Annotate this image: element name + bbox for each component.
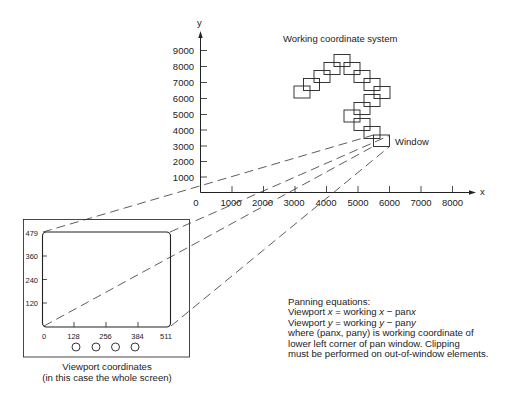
viewport-caption: Viewport coordinates (in this case the w… — [24, 361, 190, 383]
svg-text:240: 240 — [25, 276, 38, 285]
window-label: Window — [395, 136, 429, 147]
panning-note-line3: must be performed on out-of-window eleme… — [288, 349, 489, 359]
svg-text:5000: 5000 — [347, 197, 368, 208]
projection-line-top-left — [43, 135, 374, 232]
svg-text:128: 128 — [67, 332, 80, 341]
knob-icon — [72, 343, 80, 351]
svg-text:256: 256 — [99, 332, 112, 341]
viewport-caption-line1: Viewport coordinates — [24, 361, 190, 372]
y-axis-arrow-icon — [198, 31, 202, 38]
x-axis-label: x — [480, 186, 485, 197]
svg-text:6000: 6000 — [379, 197, 400, 208]
svg-text:5000: 5000 — [173, 109, 194, 120]
y-ticks — [201, 51, 208, 178]
working-axes: y x 1000 2000 3000 4000 5000 6000 7000 8… — [173, 17, 485, 208]
svg-text:120: 120 — [25, 299, 38, 308]
svg-text:2000: 2000 — [173, 156, 194, 167]
y-axis-label: y — [197, 17, 202, 28]
svg-text:360: 360 — [25, 252, 38, 261]
svg-text:8000: 8000 — [442, 197, 463, 208]
svg-text:1000: 1000 — [220, 197, 241, 208]
svg-text:6000: 6000 — [173, 93, 194, 104]
knob-icon — [92, 343, 100, 351]
svg-text:479: 479 — [25, 229, 38, 238]
svg-text:7000: 7000 — [410, 197, 431, 208]
svg-text:9000: 9000 — [173, 45, 194, 56]
svg-text:1000: 1000 — [173, 172, 194, 183]
viewport-y-tick-labels: 479 360 240 120 — [25, 229, 38, 308]
svg-text:8000: 8000 — [173, 61, 194, 72]
svg-text:3000: 3000 — [283, 197, 304, 208]
viewport-monitor: 479 360 240 120 0 128 256 384 511 — [24, 220, 190, 358]
knob-icon — [131, 343, 139, 351]
svg-text:3000: 3000 — [173, 141, 194, 152]
monitor-screen — [43, 232, 171, 327]
panning-equations: Panning equations: Viewport x = working … — [288, 297, 489, 359]
projection-line-top-right — [170, 136, 390, 233]
viewport-caption-line2: (in this case the whole screen) — [24, 372, 190, 383]
y-tick-labels: 1000 2000 3000 4000 5000 6000 7000 8000 … — [173, 45, 194, 183]
working-system-title: Working coordinate system — [283, 33, 397, 44]
svg-text:0: 0 — [42, 332, 46, 341]
svg-text:4000: 4000 — [173, 125, 194, 136]
x-axis-arrow-icon — [469, 190, 476, 194]
monitor-knobs — [72, 343, 139, 351]
svg-text:384: 384 — [131, 332, 144, 341]
svg-text:511: 511 — [160, 332, 172, 341]
knob-icon — [112, 343, 120, 351]
x-tick-labels: 0 1000 2000 3000 4000 5000 6000 7000 800… — [193, 197, 463, 208]
pan-window — [374, 135, 390, 147]
viewport-x-tick-labels: 0 128 256 384 511 — [42, 332, 172, 341]
pan-path-boxes — [294, 55, 390, 139]
svg-text:7000: 7000 — [173, 77, 194, 88]
svg-text:0: 0 — [193, 197, 198, 208]
x-ticks — [232, 186, 453, 193]
